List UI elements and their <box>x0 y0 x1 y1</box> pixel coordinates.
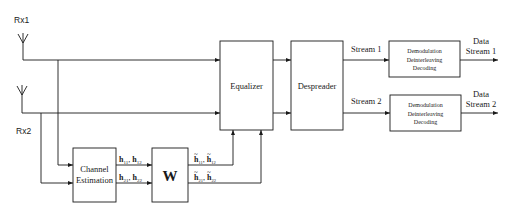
antenna-rx2: Rx2 <box>16 85 31 136</box>
stream2-label: Stream 2 <box>351 96 381 106</box>
channel-estimation-label-line2: Estimation <box>76 175 114 185</box>
antenna-rx1: Rx1 <box>14 15 29 60</box>
despreader-label: Despreader <box>298 81 337 91</box>
svg-text:h11, h12: h11, h12 <box>194 155 216 165</box>
antenna-icon <box>18 33 28 60</box>
demod-block-1: Demodulation Deinterleaving Decoding <box>389 41 460 77</box>
svg-text:Decoding: Decoding <box>413 65 436 71</box>
svg-text:h21, h22: h21, h22 <box>194 173 216 183</box>
htilde-bottom-label: ~ ~ h21, h22 <box>194 168 216 183</box>
svg-text:Demodulation: Demodulation <box>408 102 442 108</box>
svg-text:Decoding: Decoding <box>414 119 437 125</box>
rx2-label: Rx2 <box>16 126 31 136</box>
equalizer-label: Equalizer <box>230 81 263 91</box>
despreader-block: Despreader <box>291 41 343 130</box>
svg-text:Data: Data <box>473 36 489 46</box>
h-bottom-label: h21, h22 <box>119 173 142 183</box>
rx1-to-channel-estimation-line <box>58 60 73 165</box>
stream1-label: Stream 1 <box>351 44 381 54</box>
svg-text:Data: Data <box>473 89 489 99</box>
receiver-diagram: Rx1 Rx2 Channel Estimation h11, h12 h21,… <box>0 0 513 211</box>
output-label-2: Data Stream 2 <box>466 89 496 109</box>
svg-text:Demodulation: Demodulation <box>407 48 441 54</box>
channel-estimation-block: Channel Estimation <box>73 148 116 202</box>
equalizer-block: Equalizer <box>220 41 273 130</box>
h-top-label: h11, h12 <box>119 155 142 165</box>
antenna-icon <box>17 85 27 113</box>
w-label: W <box>163 168 178 184</box>
rx2-to-channel-estimation-line <box>41 113 73 183</box>
channel-estimation-label-line1: Channel <box>80 164 109 174</box>
htilde-top-label: ~ ~ h11, h12 <box>194 150 216 165</box>
svg-text:Stream 2: Stream 2 <box>466 99 496 109</box>
svg-text:Deinterleaving: Deinterleaving <box>407 57 443 63</box>
w-block: W <box>152 148 188 202</box>
htilde-bottom-line <box>188 130 261 183</box>
demod-block-2: Demodulation Deinterleaving Decoding <box>390 95 461 131</box>
output-label-1: Data Stream 1 <box>466 36 496 56</box>
svg-text:Stream 1: Stream 1 <box>466 46 496 56</box>
svg-text:Deinterleaving: Deinterleaving <box>408 111 444 117</box>
rx1-label: Rx1 <box>14 15 29 25</box>
